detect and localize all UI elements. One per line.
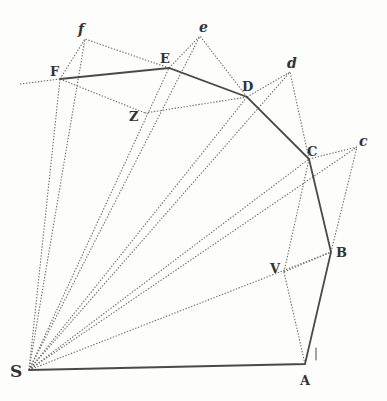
dotted-line-S-F	[29, 79, 60, 370]
dotted-line-D-d	[247, 72, 290, 97]
dotted-line-V-B	[284, 252, 331, 272]
extension-line-f-left	[20, 79, 60, 84]
dotted-line-S-E	[29, 68, 169, 370]
label-F: F	[50, 65, 59, 78]
label-f: f	[78, 22, 84, 36]
label-S: S	[10, 363, 22, 380]
dotted-line-S-f	[29, 39, 85, 370]
dotted-line-B-c	[331, 147, 357, 252]
dotted-line-F-Z	[60, 79, 145, 113]
label-E: E	[160, 52, 170, 65]
label-d: d	[287, 56, 297, 70]
dotted-line-S-D	[29, 97, 247, 370]
label-V: V	[270, 262, 280, 275]
dotted-line-S-c	[29, 147, 357, 370]
label-C: C	[307, 145, 317, 158]
dotted-line-S-C	[29, 159, 309, 370]
dotted-line-Z-D	[145, 97, 247, 113]
dotted-line-E-e	[169, 36, 200, 68]
label-e: e	[199, 20, 208, 34]
label-c: c	[359, 134, 368, 148]
label-A: A	[300, 374, 310, 387]
dotted-line-A-V	[284, 272, 305, 364]
principia-diagram: S A B C D E F V Z c d e f	[0, 0, 387, 401]
dotted-line-V-C	[284, 159, 309, 272]
dotted-line-S-d	[29, 72, 290, 370]
orbit-polygon-path	[29, 68, 331, 370]
label-Z: Z	[129, 110, 139, 123]
dotted-line-S-e	[29, 36, 200, 370]
diagram-canvas	[0, 0, 387, 401]
dotted-line-S-B	[29, 252, 331, 370]
dotted-construction-lines	[29, 36, 357, 370]
label-B: B	[336, 246, 347, 259]
dotted-line-E-f	[85, 39, 169, 68]
label-D: D	[242, 80, 253, 93]
